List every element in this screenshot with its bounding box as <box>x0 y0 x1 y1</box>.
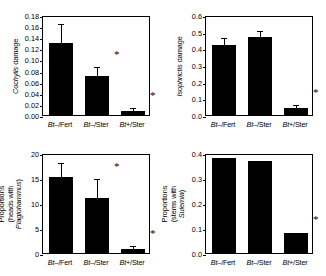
y-tick-mark <box>40 73 43 74</box>
y-tick-mark <box>203 230 206 231</box>
bar <box>212 158 236 253</box>
plot-frame: ** <box>42 154 150 254</box>
x-tick-label: Bt–/Ster <box>247 120 272 129</box>
y-tick-label: 0.6 <box>192 12 202 21</box>
bar <box>121 249 145 253</box>
y-tick-label: 10 <box>31 200 39 209</box>
y-tick-mark <box>203 67 206 68</box>
y-tick-label: 0.14 <box>25 34 39 43</box>
y-tick-label: 0.2 <box>192 200 202 209</box>
y-tick-mark <box>40 155 43 156</box>
chart-panel-plagiohammus-proportions: Proportions(heads with Plagiohammus)0510… <box>0 138 163 276</box>
y-tick-mark <box>40 117 43 118</box>
y-tick-mark <box>40 28 43 29</box>
y-tick-mark <box>203 255 206 256</box>
y-tick-mark <box>40 255 43 256</box>
bar <box>212 45 236 115</box>
error-bar <box>296 106 297 108</box>
bar <box>248 161 272 254</box>
significance-asterisk: * <box>150 229 156 237</box>
plot-frame: ** <box>42 16 150 116</box>
x-tick-label: Bt–/Fert <box>48 120 72 129</box>
significance-asterisk: * <box>150 91 156 99</box>
x-tick-label: Bt–/Fert <box>48 258 72 267</box>
y-tick-label: 0.3 <box>192 175 202 184</box>
error-bar <box>224 39 225 45</box>
error-bar <box>133 109 134 111</box>
y-tick-label: 0.16 <box>25 23 39 32</box>
y-tick-mark <box>203 180 206 181</box>
y-tick-label: 5 <box>35 225 39 234</box>
x-tick-label: Bt+/Ster <box>120 120 145 129</box>
x-tick-label: Bt+/Ster <box>120 258 145 267</box>
y-axis-ticks: 05101520 <box>13 154 39 254</box>
x-tick-label: Bt–/Ster <box>84 120 109 129</box>
y-tick-label: 0.06 <box>25 78 39 87</box>
error-bar-cap <box>293 105 299 106</box>
y-tick-mark <box>40 230 43 231</box>
y-tick-mark <box>203 155 206 156</box>
y-tick-label: 0.4 <box>192 45 202 54</box>
y-tick-mark <box>40 95 43 96</box>
bar <box>284 233 308 253</box>
significance-asterisk: * <box>114 162 120 170</box>
chart-panel-sulemia-proportions: Proportions(stems with Sulemia)0.00.10.2… <box>163 138 326 276</box>
y-tick-mark <box>40 180 43 181</box>
y-tick-label: 0.18 <box>25 12 39 21</box>
y-tick-label: 0.4 <box>192 150 202 159</box>
y-tick-mark <box>203 100 206 101</box>
plot-frame: * <box>205 16 313 116</box>
error-bar <box>260 32 261 37</box>
y-tick-mark <box>40 61 43 62</box>
y-axis-ticks: 0.000.020.040.060.080.100.120.140.160.18 <box>13 16 39 116</box>
y-tick-mark <box>40 39 43 40</box>
error-bar-cap <box>130 246 136 247</box>
y-tick-label: 20 <box>31 150 39 159</box>
y-tick-mark <box>40 17 43 18</box>
chart-panel-cochylis-damage: Cochylis damage0.000.020.040.060.080.100… <box>0 0 163 138</box>
significance-asterisk: * <box>114 50 120 58</box>
y-tick-label: 0.0 <box>192 250 202 259</box>
y-tick-mark <box>40 84 43 85</box>
x-tick-label: Bt+/Ster <box>283 120 308 129</box>
bar <box>85 76 109 115</box>
y-tick-label: 15 <box>31 175 39 184</box>
y-tick-label: 0.5 <box>192 28 202 37</box>
bar <box>49 43 73 115</box>
y-tick-label: 0.02 <box>25 100 39 109</box>
y-tick-mark <box>40 50 43 51</box>
y-tick-label: 0.3 <box>192 62 202 71</box>
y-tick-mark <box>40 205 43 206</box>
x-tick-label: Bt+/Ster <box>283 258 308 267</box>
error-bar <box>61 164 62 177</box>
y-tick-mark <box>40 106 43 107</box>
x-tick-label: Bt–/Fert <box>211 120 235 129</box>
y-tick-label: 0.12 <box>25 45 39 54</box>
y-tick-mark <box>203 34 206 35</box>
x-tick-label: Bt–/Ster <box>84 258 109 267</box>
error-bar <box>61 25 62 43</box>
y-axis-ticks: 0.00.10.20.30.4 <box>176 154 202 254</box>
bar <box>85 198 109 254</box>
error-bar-cap <box>58 24 64 25</box>
bar <box>121 111 145 115</box>
bar <box>248 37 272 115</box>
y-tick-label: 0.2 <box>192 78 202 87</box>
significance-asterisk: * <box>313 215 319 223</box>
y-tick-label: 0 <box>35 250 39 259</box>
bar <box>49 177 73 254</box>
error-bar-cap <box>94 179 100 180</box>
y-tick-mark <box>203 84 206 85</box>
y-tick-label: 0.1 <box>192 225 202 234</box>
error-bar <box>133 247 134 250</box>
error-bar-cap <box>257 31 263 32</box>
plot-frame: * <box>205 154 313 254</box>
y-axis-ticks: 0.00.10.20.30.40.50.6 <box>176 16 202 116</box>
figure-panel-grid: Cochylis damage0.000.020.040.060.080.100… <box>0 0 326 276</box>
y-tick-label: 0.1 <box>192 95 202 104</box>
error-bar-cap <box>94 67 100 68</box>
y-tick-label: 0.04 <box>25 89 39 98</box>
y-tick-mark <box>203 117 206 118</box>
error-bar-cap <box>58 163 64 164</box>
y-tick-mark <box>203 17 206 18</box>
